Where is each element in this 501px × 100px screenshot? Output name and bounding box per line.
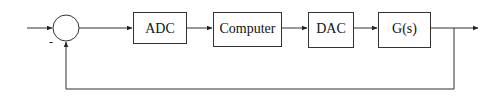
block-adc: ADC: [134, 13, 187, 44]
block-dac: DAC: [309, 13, 354, 48]
block-adc-label: ADC: [145, 21, 175, 36]
feedback-sign: -: [49, 35, 53, 49]
summing-junction: [53, 15, 79, 41]
block-plant: G(s): [379, 13, 431, 48]
block-computer-label: Computer: [220, 21, 276, 36]
block-computer: Computer: [214, 13, 282, 47]
block-plant-label: G(s): [392, 21, 417, 37]
block-dac-label: DAC: [316, 21, 346, 36]
block-diagram: - ADC Computer DAC G(s): [0, 0, 501, 100]
